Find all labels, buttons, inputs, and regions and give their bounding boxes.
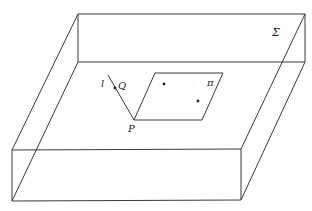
geometry-diagram: Σ π l Q P — [0, 0, 312, 211]
label-q: Q — [118, 80, 126, 91]
point-q-dot — [114, 87, 117, 90]
box-front-top-edge — [12, 149, 241, 150]
label-sigma: Σ — [271, 26, 280, 39]
plane-point-1 — [163, 83, 166, 86]
box-front-bottom-edge — [12, 200, 241, 201]
box-inner-right-diagonal — [241, 62, 305, 200]
label-l: l — [101, 78, 104, 89]
label-pi: π — [206, 77, 214, 88]
label-p: P — [127, 123, 135, 134]
plane-point-2 — [197, 100, 200, 103]
